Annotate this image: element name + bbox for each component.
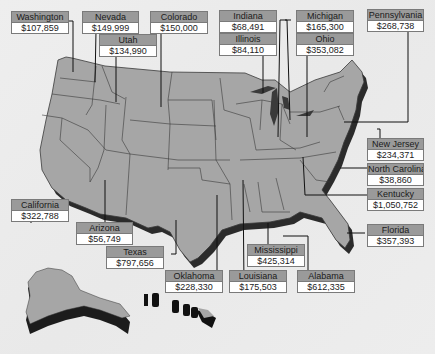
state-name: Washington <box>12 12 68 23</box>
label-nevada: Nevada $149,999 <box>82 11 139 34</box>
label-north-carolina: North Carolina $38,860 <box>367 163 424 186</box>
state-name: California <box>12 200 68 211</box>
label-mississippi: Mississippi $425,314 <box>247 244 305 267</box>
state-value: $150,000 <box>151 23 207 33</box>
state-value: $353,082 <box>297 45 353 55</box>
state-value: $234,371 <box>368 150 423 160</box>
label-ohio: Ohio $353,082 <box>296 33 354 56</box>
state-name: Alabama <box>298 271 354 282</box>
state-value: $68,491 <box>220 22 276 32</box>
label-louisiana: Louisiana $175,503 <box>229 270 287 293</box>
label-indiana: Indiana $68,491 <box>219 10 277 33</box>
state-value: $357,393 <box>368 236 423 246</box>
label-illinois: Illinois $84,110 <box>219 33 277 56</box>
state-value: $84,110 <box>220 45 276 55</box>
label-oklahoma: Oklahoma $228,330 <box>165 270 223 293</box>
state-name: Mississippi <box>248 245 304 256</box>
state-value: $1,050,752 <box>368 200 423 210</box>
state-value: $107,859 <box>12 23 68 33</box>
label-new-jersey: New Jersey $234,371 <box>367 138 424 161</box>
state-name: Texas <box>107 247 163 258</box>
label-washington: Washington $107,859 <box>11 11 69 34</box>
state-value: $165,300 <box>297 22 353 32</box>
state-value: $322,788 <box>12 211 68 221</box>
state-value: $612,335 <box>298 282 354 292</box>
state-value: $228,330 <box>166 282 222 292</box>
label-pennsylvania: Pennsylvania $268,738 <box>367 9 424 32</box>
state-name: Louisiana <box>230 271 286 282</box>
state-name: New Jersey <box>368 139 423 150</box>
label-colorado: Colorado $150,000 <box>150 11 208 34</box>
state-name: North Carolina <box>368 164 423 175</box>
label-texas: Texas $797,656 <box>106 246 164 269</box>
state-value: $134,990 <box>100 46 156 56</box>
label-california: California $322,788 <box>11 199 69 222</box>
state-value: $56,749 <box>77 234 132 244</box>
state-value: $797,656 <box>107 258 163 268</box>
label-kentucky: Kentucky $1,050,752 <box>367 188 424 211</box>
state-name: Utah <box>100 35 156 46</box>
state-value: $38,860 <box>368 175 423 185</box>
state-name: Florida <box>368 225 423 236</box>
label-florida: Florida $357,393 <box>367 224 424 247</box>
state-name: Indiana <box>220 11 276 22</box>
state-name: Ohio <box>297 34 353 45</box>
state-value: $268,738 <box>368 21 423 31</box>
label-utah: Utah $134,990 <box>99 34 157 57</box>
label-michigan: Michigan $165,300 <box>296 10 354 33</box>
state-name: Pennsylvania <box>368 10 423 21</box>
label-alabama: Alabama $612,335 <box>297 270 355 293</box>
state-name: Illinois <box>220 34 276 45</box>
state-value: $425,314 <box>248 256 304 266</box>
state-name: Kentucky <box>368 189 423 200</box>
state-name: Nevada <box>83 12 138 23</box>
state-value: $175,503 <box>230 282 286 292</box>
label-arizona: Arizona $56,749 <box>76 222 133 245</box>
state-name: Colorado <box>151 12 207 23</box>
state-name: Arizona <box>77 223 132 234</box>
state-value: $149,999 <box>83 23 138 33</box>
hawaii <box>144 293 216 328</box>
state-name: Michigan <box>297 11 353 22</box>
state-name: Oklahoma <box>166 271 222 282</box>
